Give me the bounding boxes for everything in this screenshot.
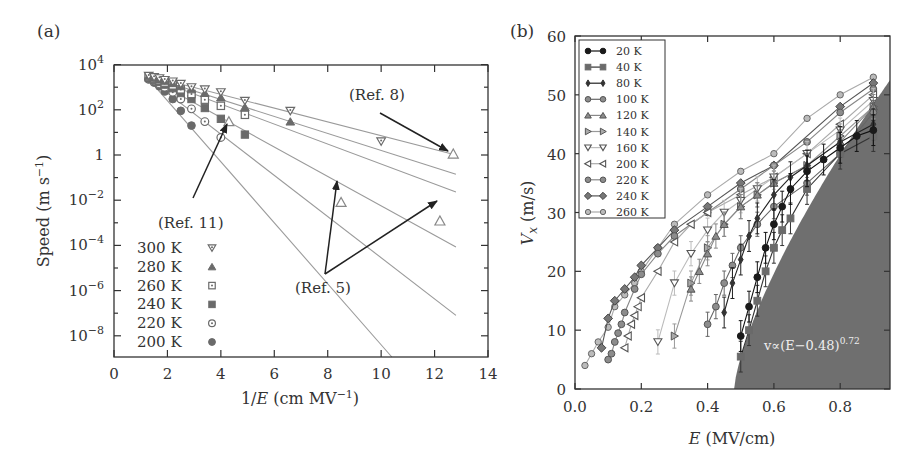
data-point: [754, 274, 761, 281]
circle-icon: [787, 186, 794, 193]
data-point: [738, 256, 743, 264]
square-icon: [585, 64, 591, 70]
x-tick-label: 0: [109, 365, 119, 383]
legend-marker: [209, 339, 216, 346]
data-point: [621, 309, 628, 316]
circle-icon: [615, 330, 622, 337]
annotation-ref5: (Ref. 5): [295, 279, 351, 297]
y-tick-label: 10−4: [69, 233, 104, 254]
circle-icon: [585, 177, 591, 183]
square-icon: [201, 104, 208, 111]
data-point: [654, 250, 661, 257]
diamond-icon: [722, 309, 727, 317]
y-tick-label: 60: [547, 28, 566, 46]
circle-icon: [704, 321, 711, 328]
data-point: [870, 127, 877, 134]
circle-icon: [771, 221, 778, 228]
triangle-left-icon: [637, 294, 644, 302]
circle-icon: [209, 339, 216, 346]
x-tick-label: 6: [270, 365, 280, 383]
legend-marker: [585, 177, 591, 183]
legend-label: 20 K: [616, 45, 642, 58]
data-point: [837, 144, 844, 151]
panel-a-data-points: [144, 72, 385, 145]
circle-icon: [600, 209, 605, 214]
circle-icon: [721, 280, 728, 287]
square-icon: [771, 244, 778, 251]
data-point: [631, 311, 638, 319]
triangle-down-icon: [687, 250, 695, 257]
data-point: [188, 122, 196, 130]
y-tick-label: 102: [78, 98, 104, 119]
circle-icon: [588, 351, 594, 357]
panel-b-y-tick-labels: 0102030405060: [547, 28, 566, 399]
data-point: [762, 268, 769, 275]
y-tick-label: 104: [78, 53, 104, 74]
square-icon: [779, 227, 786, 234]
legend-marker: [209, 282, 215, 288]
circle-icon: [611, 339, 618, 346]
data-point: [704, 192, 710, 198]
triangle-down-icon: [704, 227, 712, 234]
square-icon: [746, 327, 753, 334]
data-point: [779, 203, 786, 210]
legend-marker: [208, 245, 216, 251]
legend-label: 240 K: [616, 190, 649, 203]
y-tick-label: 30: [547, 205, 566, 223]
reference-point-marker: [336, 197, 346, 206]
circle-icon: [177, 107, 185, 115]
legend-label: 120 K: [616, 109, 649, 122]
circle-icon: [712, 303, 719, 310]
ref5-arrow-right: [325, 201, 437, 274]
data-point: [241, 111, 248, 118]
circle-icon: [704, 192, 710, 198]
data-point: [771, 244, 778, 251]
data-point: [217, 115, 224, 122]
data-point: [787, 215, 794, 222]
data-point: [670, 280, 678, 287]
data-point: [762, 244, 769, 251]
diamond-icon: [730, 279, 735, 287]
x-tick-label: 10: [372, 365, 391, 383]
y-tick-label: 0: [556, 381, 566, 399]
legend-marker: [600, 48, 606, 54]
x-tick-label: 2: [163, 365, 173, 383]
circle-icon: [738, 168, 744, 174]
figure: (a) (Ref. 8) (Ref. 11) (Ref. 5) 10410211…: [0, 0, 920, 469]
data-point: [634, 303, 641, 311]
y-tick-label: 10: [547, 322, 566, 340]
panel-a-reference-points: [224, 117, 458, 225]
x-tick-label: 0.8: [828, 398, 852, 416]
y-tick-label: 10−6: [69, 279, 104, 300]
triangle-left-icon: [621, 344, 628, 352]
data-point: [611, 339, 618, 346]
triangle-left-icon: [634, 303, 641, 311]
square-icon: [787, 215, 794, 222]
legend-marker: [585, 48, 591, 54]
legend-label: 260 K: [137, 277, 182, 295]
square-icon: [737, 353, 744, 360]
circle-icon: [804, 168, 811, 175]
data-point: [804, 115, 810, 121]
panel-b: (b) v∝(E−0.48)0.72 0102030405060 0.00.20…: [510, 21, 890, 448]
legend-label: 280 K: [137, 258, 182, 276]
circle-icon: [608, 350, 615, 357]
data-point: [615, 330, 622, 337]
data-point: [621, 344, 628, 352]
y-tick-label: 10−2: [69, 188, 104, 209]
data-point: [604, 314, 613, 323]
legend-label: 160 K: [616, 142, 649, 155]
fit-line: [149, 76, 456, 155]
circle-icon: [654, 250, 661, 257]
square-icon: [754, 297, 761, 304]
diamond-icon: [738, 256, 743, 264]
circle-icon: [779, 203, 786, 210]
legend-marker: [208, 263, 216, 269]
legend-marker: [585, 96, 591, 102]
data-point: [722, 309, 727, 317]
circle-icon: [618, 321, 625, 328]
data-point: [746, 327, 753, 334]
circle-icon: [585, 96, 591, 102]
data-point: [787, 186, 794, 193]
data-point: [618, 321, 625, 328]
